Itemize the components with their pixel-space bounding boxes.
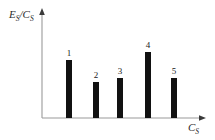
y-axis-label-numerator-base: E bbox=[9, 8, 16, 20]
x-axis-label: CS bbox=[188, 121, 199, 136]
y-axis-label-denominator-sub: S bbox=[30, 14, 34, 23]
y-axis-label-denominator-base: C bbox=[23, 8, 30, 20]
bar-3 bbox=[117, 78, 123, 118]
bar-2 bbox=[93, 82, 99, 118]
bar-label-2: 2 bbox=[89, 70, 103, 80]
bar-label-1: 1 bbox=[62, 48, 76, 58]
bar-1 bbox=[66, 60, 72, 118]
x-axis-label-sub: S bbox=[195, 127, 199, 136]
bar-5 bbox=[171, 78, 177, 118]
x-axis-arrowhead bbox=[199, 115, 206, 121]
bar-label-5: 5 bbox=[167, 66, 181, 76]
chart-container: ES/CS CS 1 2 3 4 5 bbox=[0, 0, 215, 140]
bar-label-4: 4 bbox=[141, 40, 155, 50]
bar-4 bbox=[145, 52, 151, 118]
y-axis-arrowhead bbox=[39, 8, 45, 15]
y-axis-label: ES/CS bbox=[9, 8, 34, 23]
bar-label-3: 3 bbox=[113, 66, 127, 76]
